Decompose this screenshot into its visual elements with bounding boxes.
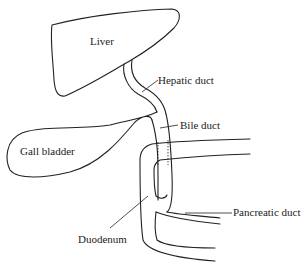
hepatic-duct-shape [124,64,157,112]
pancreatic-duct-label: Pancreatic duct [233,206,301,218]
duodenum-label: Duodenum [78,233,127,245]
liver-label: Liver [90,35,114,47]
hepatic-duct-label: Hepatic duct [158,74,214,86]
bile-duct-label: Bile duct [180,119,220,131]
bile-duct-shape [166,114,172,212]
digestive-organs-diagram: Liver Hepatic duct Bile duct Gall bladde… [0,0,308,269]
gall-bladder-label: Gall bladder [20,145,75,157]
